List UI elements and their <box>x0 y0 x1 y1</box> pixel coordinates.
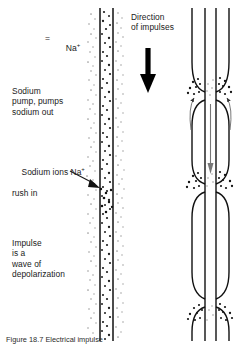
label-sodium-ions-line1: Sodium ions Na <box>22 167 82 177</box>
label-direction-of-impulses: Direction of impulses <box>131 12 174 33</box>
label-sodium-ions-line2: rush in <box>12 188 85 198</box>
figure-caption: Figure 18.7 Electrical impulse <box>6 335 103 344</box>
node-of-ranvier-2-dots <box>186 171 233 189</box>
label-impulse-depolarization: Impulse is a wave of depolarization <box>12 238 65 280</box>
extracellular-sodium-dots-left <box>86 13 97 339</box>
myelin-sheath-segment-2 <box>192 100 205 184</box>
saltatory-conduction-arrow-head <box>208 163 214 174</box>
node-of-ranvier-3-faint-dots <box>206 305 214 321</box>
direction-of-impulses-arrow <box>140 48 156 93</box>
myelin-sheath-segment-3 <box>192 192 205 299</box>
legend-sodium-symbol: Na <box>66 43 77 53</box>
legend-sodium-label: Na+ <box>56 33 80 64</box>
myelin-sheath-segment-1b <box>216 8 229 92</box>
legend-equals-sign: = <box>45 33 50 43</box>
intracellular-sodium-dots <box>101 11 111 340</box>
label-sodium-ions-charge: + <box>81 167 85 173</box>
unmyelinated-axon-group <box>86 8 125 341</box>
node-of-ranvier-1-faint-dots <box>206 79 214 96</box>
node-of-ranvier-2-faint-dots <box>206 173 214 187</box>
extracellular-sodium-dots-right <box>115 12 125 338</box>
myelinated-axon-group <box>186 8 233 341</box>
legend-sodium-charge: + <box>77 43 81 49</box>
label-sodium-ions-rush-in: Sodium ions Na+ rush in <box>12 157 85 219</box>
label-sodium-pump: Sodium pump, pumps sodium out <box>12 86 63 117</box>
myelin-sheath-segment-3b <box>216 192 229 299</box>
myelin-sheath-segment-4 <box>192 307 205 341</box>
myelin-sheath-segment-2b <box>216 100 229 184</box>
